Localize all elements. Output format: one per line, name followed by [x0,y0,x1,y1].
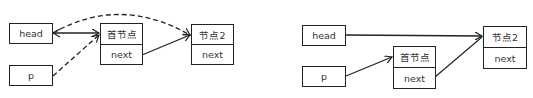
right-head-label: head [312,30,336,41]
left-first-node-next: next [101,45,142,65]
edge-p-to-first-dashed [53,35,99,76]
left-p-box: p [9,65,53,86]
left-first-node: 首节点 next [100,23,143,65]
right-node2-title: 节点2 [484,27,526,48]
left-head-label: head [19,28,43,39]
edge-p-to-first [346,57,392,76]
right-first-node-title: 首节点 [394,47,435,68]
left-head-box: head [9,23,53,44]
edge-first-next-to-node2 [142,35,190,55]
right-node2-next: next [484,48,526,68]
edge-first-next-to-node2-right [435,37,482,77]
right-head-box: head [302,25,346,46]
edges-layer [0,0,533,98]
left-node2-title: 节点2 [192,25,233,45]
right-p-label: p [321,71,327,82]
left-p-label: p [28,70,34,81]
left-first-node-title: 首节点 [101,24,142,45]
diagram-canvas: head p 首节点 next 节点2 next head p 首节点 next… [0,0,533,98]
right-p-box: p [302,66,346,87]
left-node2-next: next [192,45,233,64]
edge-head-to-node2 [346,35,482,36]
right-first-node-next: next [394,68,435,88]
right-first-node: 首节点 next [393,46,436,89]
right-node2: 节点2 next [483,26,527,69]
left-node2: 节点2 next [191,24,234,65]
